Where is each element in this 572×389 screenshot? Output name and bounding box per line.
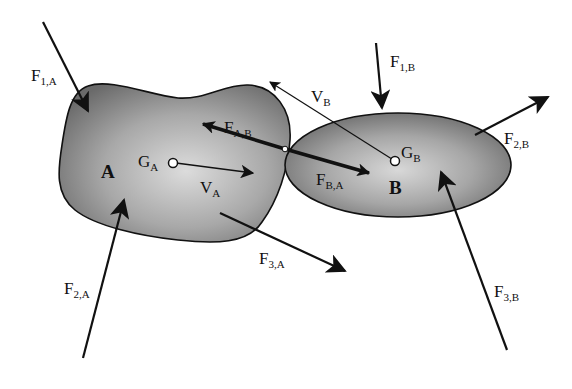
contact-point — [282, 146, 288, 152]
label-body-b: B — [389, 177, 402, 198]
label-body-a: A — [101, 161, 115, 182]
centroid-a — [169, 159, 178, 168]
label-f3a: F3,A — [259, 249, 285, 270]
two-body-force-diagram: F1,A FA,B GA A VA F3,A F2,A VB F1,B GB F… — [0, 0, 572, 389]
label-f1a: F1,A — [31, 66, 57, 87]
label-f3b: F3,B — [494, 282, 519, 303]
label-f2b: F2,B — [504, 129, 529, 150]
force-1a-arrow — [43, 22, 88, 111]
force-1b-arrow — [376, 43, 382, 108]
centroid-b — [391, 157, 400, 166]
label-f2a: F2,A — [64, 279, 90, 300]
label-vb: VB — [311, 87, 331, 108]
label-f1b: F1,B — [390, 52, 415, 73]
